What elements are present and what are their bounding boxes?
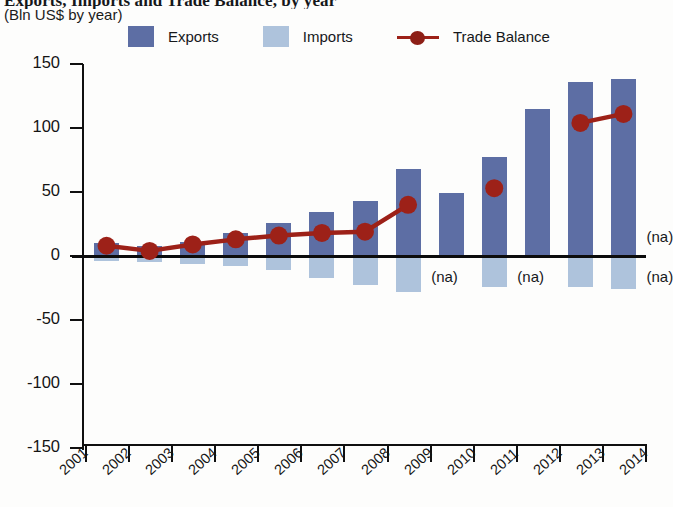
- y-tick--100: [70, 383, 83, 385]
- y-tick-label-50: 50: [0, 181, 60, 200]
- bar-imports-2008[interactable]: [396, 256, 421, 292]
- y-tick--50: [70, 319, 83, 321]
- x-tick-label-2008: 2008: [358, 444, 393, 477]
- y-tick-100: [70, 127, 83, 129]
- na-label-imports-2014: (na): [647, 268, 673, 285]
- bar-exports-2013[interactable]: [611, 79, 636, 256]
- bar-exports-2008[interactable]: [396, 169, 421, 256]
- bar-exports-2006[interactable]: [309, 212, 334, 256]
- bar-exports-2005[interactable]: [266, 223, 291, 256]
- bar-imports-2004[interactable]: [223, 256, 248, 266]
- x-axis-spine: [84, 444, 646, 446]
- bar-exports-2004[interactable]: [223, 233, 248, 256]
- bar-exports-2012[interactable]: [568, 82, 593, 256]
- bar-exports-2010[interactable]: [482, 157, 507, 256]
- bar-exports-2009[interactable]: [439, 193, 464, 256]
- y-tick-label-150: 150: [0, 53, 60, 72]
- y-tick-label--150: -150: [0, 437, 60, 456]
- x-tick-label-2009: 2009: [401, 444, 436, 477]
- bar-exports-2011[interactable]: [525, 109, 550, 256]
- y-tick-label--100: -100: [0, 373, 60, 392]
- na-label-imports-2009: (na): [431, 268, 458, 285]
- bar-exports-2003[interactable]: [180, 242, 205, 256]
- bar-imports-2006[interactable]: [309, 256, 334, 278]
- bar-imports-2010[interactable]: [482, 256, 507, 287]
- bar-imports-2005[interactable]: [266, 256, 291, 270]
- y-tick-label-0: 0: [0, 245, 60, 264]
- y-tick-label--50: -50: [0, 309, 60, 328]
- bar-imports-2013[interactable]: [611, 256, 636, 289]
- x-tick-label-2010: 2010: [444, 444, 479, 477]
- na-label-exports-2014: (na): [647, 228, 673, 245]
- zero-baseline: [72, 255, 646, 258]
- bar-imports-2007[interactable]: [353, 256, 378, 285]
- bar-exports-2007[interactable]: [353, 201, 378, 256]
- y-tick-label-100: 100: [0, 117, 60, 136]
- y-tick-150: [70, 63, 83, 65]
- na-label-imports-2011: (na): [517, 268, 544, 285]
- y-tick-50: [70, 191, 83, 193]
- bar-imports-2012[interactable]: [568, 256, 593, 287]
